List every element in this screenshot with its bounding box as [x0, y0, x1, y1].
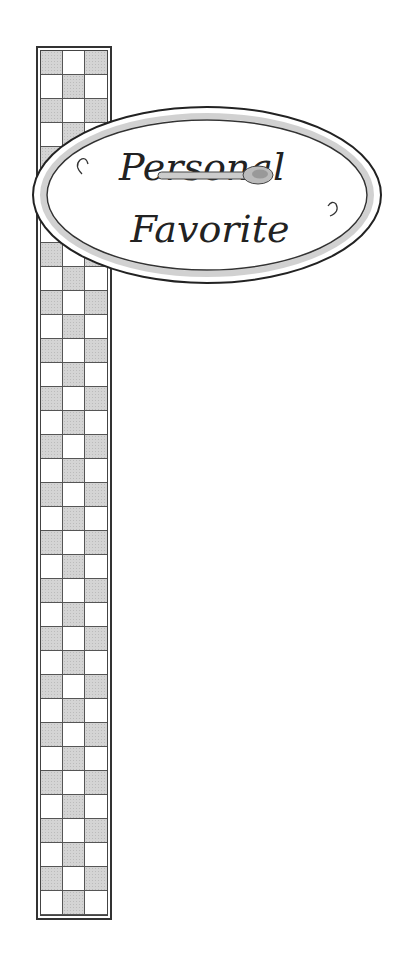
- check-cell: [41, 411, 63, 435]
- check-cell: [41, 819, 63, 843]
- personal-favorite-sign: Personal Favorite: [30, 104, 384, 286]
- check-cell: [41, 723, 63, 747]
- check-cell: [63, 891, 85, 915]
- check-cell: [85, 675, 107, 699]
- check-cell: [85, 795, 107, 819]
- check-cell: [63, 843, 85, 867]
- check-cell: [41, 339, 63, 363]
- check-cell: [63, 771, 85, 795]
- check-cell: [63, 579, 85, 603]
- check-cell: [85, 483, 107, 507]
- check-cell: [85, 75, 107, 99]
- check-cell: [41, 795, 63, 819]
- check-cell: [63, 363, 85, 387]
- check-cell: [41, 867, 63, 891]
- check-cell: [41, 675, 63, 699]
- check-cell: [41, 51, 63, 75]
- check-cell: [63, 291, 85, 315]
- check-cell: [85, 339, 107, 363]
- check-cell: [85, 747, 107, 771]
- check-cell: [63, 819, 85, 843]
- check-cell: [85, 363, 107, 387]
- check-cell: [41, 699, 63, 723]
- check-cell: [85, 843, 107, 867]
- check-cell: [85, 651, 107, 675]
- check-cell: [41, 627, 63, 651]
- check-cell: [85, 627, 107, 651]
- check-cell: [41, 291, 63, 315]
- check-cell: [63, 315, 85, 339]
- check-cell: [41, 459, 63, 483]
- check-cell: [63, 723, 85, 747]
- check-cell: [41, 531, 63, 555]
- check-cell: [41, 435, 63, 459]
- check-cell: [63, 867, 85, 891]
- check-cell: [63, 75, 85, 99]
- check-cell: [85, 579, 107, 603]
- check-cell: [63, 507, 85, 531]
- check-cell: [85, 531, 107, 555]
- check-cell: [85, 699, 107, 723]
- check-cell: [41, 651, 63, 675]
- sign-line2: Favorite: [130, 207, 290, 251]
- check-cell: [63, 435, 85, 459]
- check-cell: [41, 387, 63, 411]
- check-cell: [85, 891, 107, 915]
- check-cell: [41, 843, 63, 867]
- check-cell: [85, 387, 107, 411]
- check-cell: [63, 459, 85, 483]
- check-cell: [41, 555, 63, 579]
- check-cell: [63, 795, 85, 819]
- check-cell: [85, 435, 107, 459]
- check-cell: [85, 51, 107, 75]
- check-cell: [85, 867, 107, 891]
- check-cell: [85, 555, 107, 579]
- check-cell: [85, 459, 107, 483]
- check-cell: [63, 387, 85, 411]
- check-cell: [63, 627, 85, 651]
- check-cell: [85, 603, 107, 627]
- check-cell: [63, 411, 85, 435]
- check-cell: [63, 483, 85, 507]
- check-cell: [85, 723, 107, 747]
- check-cell: [63, 651, 85, 675]
- check-cell: [63, 555, 85, 579]
- check-cell: [41, 603, 63, 627]
- check-cell: [41, 579, 63, 603]
- check-cell: [63, 531, 85, 555]
- check-cell: [85, 411, 107, 435]
- check-cell: [41, 747, 63, 771]
- check-cell: [63, 699, 85, 723]
- check-cell: [85, 771, 107, 795]
- check-cell: [63, 603, 85, 627]
- check-cell: [85, 315, 107, 339]
- check-cell: [63, 675, 85, 699]
- check-cell: [41, 891, 63, 915]
- check-cell: [63, 339, 85, 363]
- check-cell: [63, 747, 85, 771]
- check-cell: [41, 363, 63, 387]
- check-cell: [85, 507, 107, 531]
- check-cell: [85, 819, 107, 843]
- check-cell: [63, 51, 85, 75]
- check-cell: [41, 771, 63, 795]
- check-cell: [41, 315, 63, 339]
- check-cell: [85, 291, 107, 315]
- check-cell: [41, 75, 63, 99]
- check-cell: [41, 507, 63, 531]
- check-cell: [41, 483, 63, 507]
